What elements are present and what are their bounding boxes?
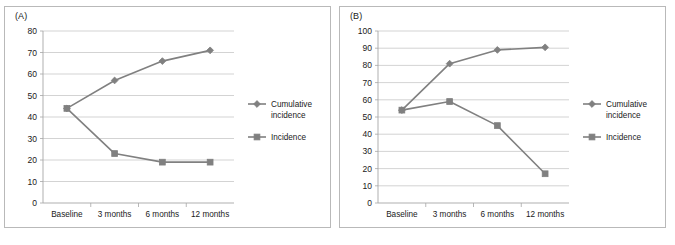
legend-marker-square bbox=[254, 134, 260, 140]
y-axis-tick-label: 40 bbox=[28, 112, 38, 122]
x-axis-tick-label: 6 months bbox=[146, 210, 180, 219]
chart-panel-a: (A) 01020304050607080Baseline3 months6 m… bbox=[4, 6, 331, 228]
data-point-marker bbox=[111, 77, 118, 84]
data-point-marker bbox=[542, 44, 549, 51]
y-axis-tick-label: 0 bbox=[32, 198, 37, 208]
y-axis-tick-label: 50 bbox=[28, 91, 38, 101]
y-axis-tick-label: 60 bbox=[28, 69, 38, 79]
data-point-marker bbox=[494, 123, 500, 129]
data-point-marker bbox=[159, 159, 165, 165]
y-axis-tick-label: 0 bbox=[367, 198, 372, 208]
legend-label: Incidence bbox=[271, 133, 306, 142]
series-line-incidence bbox=[67, 108, 210, 162]
x-axis-tick-label: 3 months bbox=[433, 210, 467, 219]
legend-marker-diamond bbox=[254, 101, 261, 108]
panel-a-plot-area: 01020304050607080Baseline3 months6 month… bbox=[5, 7, 330, 227]
line-chart-b: 0102030405060708090100Baseline3 months6 … bbox=[340, 7, 667, 229]
data-point-marker bbox=[64, 106, 70, 112]
x-axis-tick-label: Baseline bbox=[51, 210, 83, 219]
legend-label: Incidence bbox=[606, 133, 641, 142]
legend-label-continued: incidence bbox=[606, 111, 641, 120]
line-chart-a: 01020304050607080Baseline3 months6 month… bbox=[5, 7, 332, 229]
data-point-marker bbox=[112, 151, 118, 157]
legend-marker-square bbox=[589, 134, 595, 140]
panel-b-plot-area: 0102030405060708090100Baseline3 months6 … bbox=[340, 7, 665, 227]
legend-label-continued: incidence bbox=[271, 111, 306, 120]
data-point-marker bbox=[399, 107, 405, 113]
y-axis-tick-label: 40 bbox=[363, 129, 373, 139]
series-line-cumulative-incidence bbox=[402, 47, 545, 110]
legend-marker-diamond bbox=[589, 101, 596, 108]
series-line-cumulative-incidence bbox=[67, 50, 210, 108]
y-axis-tick-label: 70 bbox=[28, 48, 38, 58]
data-point-marker bbox=[542, 171, 548, 177]
y-axis-tick-label: 70 bbox=[363, 78, 373, 88]
y-axis-tick-label: 50 bbox=[363, 112, 373, 122]
y-axis-tick-label: 90 bbox=[363, 43, 373, 53]
y-axis-tick-label: 60 bbox=[363, 95, 373, 105]
data-point-marker bbox=[207, 159, 213, 165]
y-axis-tick-label: 10 bbox=[28, 177, 38, 187]
y-axis-tick-label: 10 bbox=[363, 181, 373, 191]
y-axis-tick-label: 80 bbox=[28, 26, 38, 36]
x-axis-tick-label: 3 months bbox=[98, 210, 132, 219]
x-axis-tick-label: 6 months bbox=[481, 210, 515, 219]
x-axis-tick-label: 12 months bbox=[526, 210, 564, 219]
data-point-marker bbox=[159, 58, 166, 65]
legend-label: Cumulative bbox=[606, 100, 647, 109]
data-point-marker bbox=[494, 47, 501, 54]
x-axis-tick-label: 12 months bbox=[191, 210, 229, 219]
series-line-incidence bbox=[402, 102, 545, 174]
figure-container: (A) 01020304050607080Baseline3 months6 m… bbox=[0, 0, 675, 245]
y-axis-tick-label: 30 bbox=[28, 134, 38, 144]
y-axis-tick-label: 80 bbox=[363, 60, 373, 70]
legend-label: Cumulative bbox=[271, 100, 312, 109]
y-axis-tick-label: 20 bbox=[363, 164, 373, 174]
y-axis-tick-label: 30 bbox=[363, 146, 373, 156]
x-axis-tick-label: Baseline bbox=[386, 210, 418, 219]
y-axis-tick-label: 20 bbox=[28, 155, 38, 165]
chart-panel-b: (B) 0102030405060708090100Baseline3 mont… bbox=[339, 6, 666, 228]
data-point-marker bbox=[447, 99, 453, 105]
y-axis-tick-label: 100 bbox=[358, 26, 372, 36]
